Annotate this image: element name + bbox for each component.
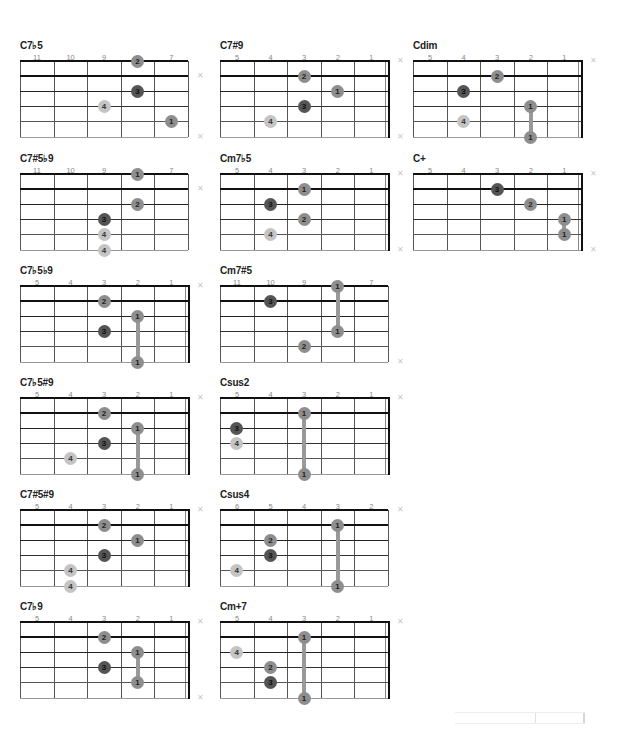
finger-dot: 1: [298, 692, 311, 705]
nut-inner-line: [385, 61, 386, 137]
muted-string-icon: ✕: [197, 133, 204, 141]
finger-dot: 3: [98, 661, 111, 674]
finger-dot: 2: [298, 70, 311, 83]
chord-diagram-c7sharp9: C7#954321✕✕2134: [220, 40, 420, 152]
finger-dot: 4: [457, 115, 470, 128]
string-line: [220, 60, 388, 62]
fret-line: [321, 286, 322, 362]
nut: [188, 397, 190, 475]
fret-line: [254, 510, 255, 586]
nut: [188, 285, 190, 363]
muted-string-icon: ✕: [397, 394, 404, 402]
string-line: [220, 397, 388, 399]
nut: [388, 60, 390, 138]
string-line: [20, 652, 188, 654]
muted-string-icon: ✕: [590, 170, 597, 178]
muted-string-icon: ✕: [397, 170, 404, 178]
string-line: [20, 698, 188, 699]
chord-diagram-c7sharp5b9: C7#5♭91110987✕12344: [20, 153, 220, 265]
finger-dot: 3: [264, 295, 277, 308]
page-footer-bar: [455, 712, 585, 724]
nut: [581, 60, 583, 138]
fret-line: [54, 510, 55, 586]
fret-line: [287, 510, 288, 586]
finger-dot: 1: [131, 356, 144, 369]
fret-line: [20, 510, 21, 586]
string-line: [20, 91, 188, 93]
fret-line: [354, 286, 355, 362]
finger-dot: 1: [131, 310, 144, 323]
string-line: [20, 173, 188, 175]
fret-line: [254, 398, 255, 474]
finger-dot: 3: [264, 549, 277, 562]
fret-line: [54, 398, 55, 474]
finger-dot: 1: [298, 183, 311, 196]
chord-name: C7#5#9: [20, 489, 54, 500]
muted-string-icon: ✕: [397, 618, 404, 626]
fret-line: [254, 174, 255, 250]
chord-diagram-c7b9: C7♭954321✕✕2131: [20, 601, 220, 713]
fret-line: [354, 622, 355, 698]
finger-dot: 2: [131, 55, 144, 68]
string-line: [413, 137, 581, 138]
barre-line: [302, 413, 306, 474]
nut-inner-line: [185, 510, 186, 586]
fret-line: [413, 174, 414, 250]
finger-dot: 1: [131, 534, 144, 547]
chord-name: Csus2: [220, 377, 249, 388]
string-line: [20, 362, 188, 363]
finger-dot: 3: [230, 422, 243, 435]
string-line: [20, 509, 188, 511]
finger-dot: 2: [524, 198, 537, 211]
fretboard-grid: ✕✕2134: [220, 61, 388, 137]
fret-line: [87, 510, 88, 586]
finger-dot: 2: [298, 213, 311, 226]
nut-inner-line: [385, 398, 386, 474]
fret-line: [220, 61, 221, 137]
muted-string-icon: ✕: [397, 506, 404, 514]
fret-line: [121, 622, 122, 698]
chord-diagram-cdim: Cdim54321✕23141: [413, 40, 613, 152]
finger-dot: 3: [98, 549, 111, 562]
fret-line: [20, 174, 21, 250]
string-line: [20, 540, 188, 542]
muted-string-icon: ✕: [397, 57, 404, 65]
fret-line: [254, 61, 255, 137]
chord-name: Cdim: [413, 40, 437, 51]
finger-dot: 2: [98, 407, 111, 420]
barre-line: [336, 525, 340, 586]
fret-line: [287, 286, 288, 362]
string-line: [413, 173, 581, 175]
finger-dot: 2: [98, 295, 111, 308]
chord-diagram-cm7b5: Cm7♭554321✕✕1324: [220, 153, 420, 265]
string-line: [413, 60, 581, 62]
finger-dot: 4: [98, 228, 111, 241]
string-line: [20, 458, 188, 459]
string-line: [220, 331, 388, 332]
string-line: [220, 540, 388, 542]
fret-line: [154, 174, 155, 250]
string-line: [413, 204, 581, 206]
fret-line: [121, 286, 122, 362]
muted-string-icon: ✕: [397, 133, 404, 141]
chord-name: C+: [413, 153, 426, 164]
muted-string-icon: ✕: [590, 57, 597, 65]
chord-diagram-cm7sharp5: Cm7#51110987✕1312: [220, 265, 420, 377]
fret-line: [220, 510, 221, 586]
string-line: [20, 60, 188, 62]
finger-dot: 1: [165, 115, 178, 128]
muted-string-icon: ✕: [397, 358, 404, 366]
fretboard-grid: ✕✕2341: [20, 61, 188, 137]
nut: [388, 397, 390, 475]
string-line: [220, 300, 388, 302]
string-line: [413, 219, 581, 220]
finger-dot: 2: [131, 198, 144, 211]
string-line: [20, 586, 188, 587]
fretboard-grid: ✕1341: [220, 398, 388, 474]
fret-line: [154, 510, 155, 586]
fret-line: [220, 174, 221, 250]
nut-inner-line: [385, 174, 386, 250]
finger-dot: 1: [331, 580, 344, 593]
chord-name: C7♭5#9: [20, 377, 53, 388]
muted-string-icon: ✕: [197, 694, 204, 702]
